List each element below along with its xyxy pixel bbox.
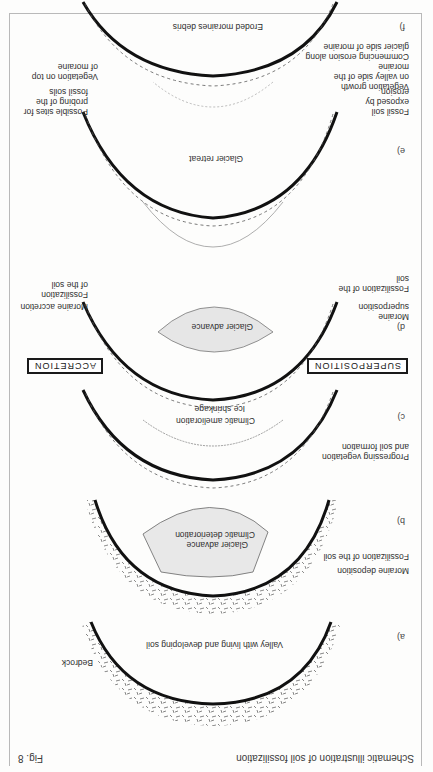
panel-d-id: d) (397, 322, 405, 332)
fossilization-of-the-label: Fossilization of the (339, 284, 409, 294)
moraine-accretion-label: Moraine accretion (20, 302, 88, 312)
soil-formation-label: and soil formation (342, 442, 409, 452)
panel-a-id: a) (397, 632, 405, 642)
fossilization-right-label: Fossilization (41, 290, 88, 300)
glacier-side-label: glacier side of moraine (323, 42, 409, 52)
panel-e-id: e) (397, 146, 405, 156)
panel-e-drawing (83, 112, 337, 247)
progressing-vegetation-label: Progressing vegetation (322, 452, 409, 462)
commencing-erosion-label: Commencing erosion along (306, 52, 409, 62)
panel-b-title-1: Glacier advance (187, 540, 248, 550)
panel-d-drawing (83, 302, 337, 408)
panel-a-title: Valley with living and developing soil (146, 640, 283, 650)
accretion-box: ACCRETION (27, 358, 103, 374)
figure-page: Schematic illustration of soil fossiliza… (0, 0, 433, 772)
panel-a-drawing (81, 622, 341, 726)
possible-sites-label: Possible sites for (24, 107, 88, 117)
panel-f-title: Eroded moraines debris (173, 22, 263, 32)
panel-e-title: Glacier retreat (189, 154, 243, 164)
panel-c-title-1: Ice shrinkage (194, 404, 245, 414)
valley-side-label: on valley side of the (334, 72, 409, 82)
moraine-deposition-label: Moraine deposition (337, 566, 409, 576)
panel-c-title-2: Climatic amelioration (176, 416, 255, 426)
of-the-soil-label: of the soil (52, 280, 88, 290)
fossilization-label: Fossilization of the soil (323, 552, 409, 562)
superposition-box: SUPERPOSITION (307, 358, 408, 374)
of-moraine-label: of moraine (58, 62, 98, 72)
moraine-label: Moraine (378, 312, 409, 322)
panel-c-id: c) (398, 412, 406, 422)
panel-f-id: f) (400, 22, 406, 32)
panel-f-drawing (83, 2, 337, 107)
erosion-label: erosion (381, 87, 409, 97)
panel-b-title-2: Climatic deterioration (175, 530, 255, 540)
panel-b-drawing (85, 500, 339, 614)
panel-d-title: Glacier advance (192, 322, 253, 332)
probing-label: probing of the (36, 97, 88, 107)
soil-label: soil (396, 274, 409, 284)
vegetation-top-label: Vegetation on top (32, 72, 98, 82)
moraine-e-label: moraine (378, 62, 409, 72)
superposition-label: superposition (358, 302, 409, 312)
fossil-soil-label: Fossil soil (372, 107, 409, 117)
panel-b-id: b) (397, 516, 405, 526)
bedrock-label: Bedrock (62, 658, 93, 668)
exposed-by-label: exposed by (366, 97, 409, 107)
fossil-soils-label: fossil soils (49, 87, 88, 97)
